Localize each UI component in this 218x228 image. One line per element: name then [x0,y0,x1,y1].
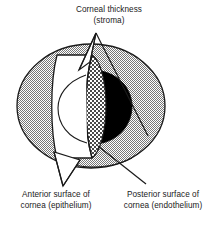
eye-cornea-diagram: Corneal thickness (stroma) Anterior surf… [0,0,218,228]
label-stroma-line1: Corneal thickness [0,5,218,16]
label-corneal-thickness-stroma: Corneal thickness (stroma) [0,5,218,26]
label-anterior-line2: cornea (epithelium) [2,201,110,212]
label-anterior-surface-cornea: Anterior surface of cornea (epithelium) [2,190,110,211]
label-posterior-surface-cornea: Posterior surface of cornea (endothelium… [108,190,218,211]
label-stroma-line2: (stroma) [0,16,218,27]
label-posterior-line1: Posterior surface of [108,190,218,201]
label-anterior-line1: Anterior surface of [2,190,110,201]
label-posterior-line2: cornea (endothelium) [108,201,218,212]
